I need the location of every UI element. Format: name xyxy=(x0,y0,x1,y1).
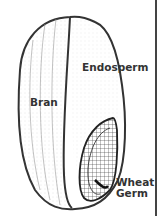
endosperm-label: Endosperm xyxy=(82,62,148,72)
frame-right-border xyxy=(155,0,157,216)
wheat-germ-label-line1: Wheat xyxy=(116,177,154,187)
wheat-germ-label-line2: Germ xyxy=(116,188,148,198)
bran-label: Bran xyxy=(30,97,58,107)
